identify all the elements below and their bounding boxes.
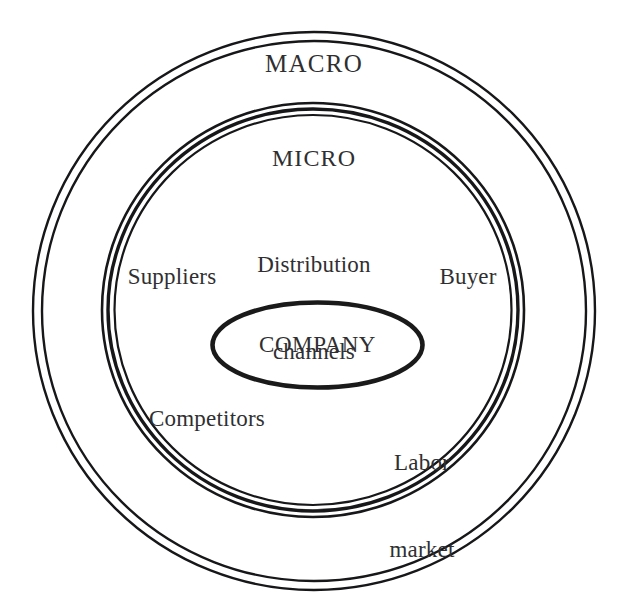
company-label: COMPANY [211,332,424,358]
labor-market-line-2: market [348,536,496,565]
diagram-canvas: MACRO MICRO Distribution channels Suppli… [0,0,628,612]
labor-market-label: Labor market [348,391,496,612]
labor-market-line-1: Labor [348,449,496,478]
micro-label: MICRO [0,145,628,172]
competitors-label: Competitors [92,406,322,432]
macro-label: MACRO [0,50,628,78]
suppliers-label: Suppliers [72,264,272,290]
distribution-channels-label: Distribution channels [164,193,464,425]
buyer-label: Buyer [398,264,538,290]
